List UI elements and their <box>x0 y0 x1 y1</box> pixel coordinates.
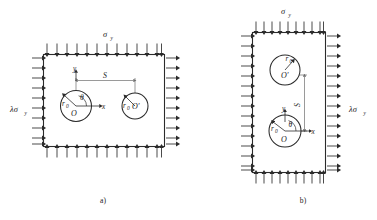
panel-b-left-load-arrows <box>241 36 251 170</box>
panel-b-lambda-sigma-symbol: λσ <box>348 105 358 114</box>
panel-b-radius-symbol: r <box>271 125 274 133</box>
panel-b-caption: b) <box>300 196 307 205</box>
panel-b-hole-second-center-label: O′ <box>281 71 289 80</box>
panel-a-second-radius-subscript: 0 <box>127 105 130 111</box>
panel-b-axis-x-label: x <box>311 128 316 136</box>
panel-a-hole-origin-center-label: O <box>71 109 77 118</box>
panel-a-lambda-sigma-symbol: λσ <box>9 105 19 114</box>
panel-b-axis-y-label: y <box>281 105 286 113</box>
panel-b-bottom-load-arrows <box>256 174 324 184</box>
panel-a-top-load-arrows <box>47 44 162 54</box>
panel-a-hole-origin: y x θ r 0 O <box>61 65 107 122</box>
panel-a-radius-subscript: 0 <box>66 103 69 109</box>
panel-a-side-load-label: λσ y <box>9 105 28 116</box>
panel-b-hole-origin-center-label: O <box>281 135 287 144</box>
panel-a-angle-label: θ <box>80 93 84 102</box>
panel-b-angle-label: θ <box>289 120 293 129</box>
panel-a-bottom-load-arrows <box>47 148 162 158</box>
panel-b-second-radius-symbol: r <box>286 55 289 63</box>
panel-a-caption: a) <box>100 196 106 205</box>
panel-a-right-load-arrows <box>166 58 176 144</box>
panel-a-lambda-sigma-subscript: y <box>24 110 28 116</box>
panel-b: σ y λσ y <box>241 7 367 205</box>
panel-b-distance-label: S <box>293 103 302 107</box>
panel-b-plate-outline <box>253 33 326 173</box>
panel-a-axis-y-label: y <box>72 65 77 73</box>
panel-a-radius-symbol: r <box>62 100 65 108</box>
panel-a-sigma-symbol: σ <box>103 30 108 39</box>
figure-container: σ y λσ y <box>0 0 377 220</box>
panel-b-right-load-arrows <box>327 36 337 170</box>
panel-a-left-load-arrows <box>32 58 42 144</box>
panel-b-side-load-label: λσ y <box>348 105 367 116</box>
panel-b-hole-second: r 0 O′ <box>270 55 300 85</box>
panel-a-top-load-label: σ y <box>103 30 114 41</box>
panel-b-lambda-sigma-subscript: y <box>363 110 367 116</box>
panel-b-sigma-symbol: σ <box>281 7 286 16</box>
panel-b-top-load-label: σ y <box>281 7 292 18</box>
panel-b-top-load-arrows <box>256 22 324 32</box>
panel-a-second-radius-symbol: r <box>123 102 126 110</box>
panel-a-hole-second: r 0 O′ <box>122 93 148 119</box>
panel-b-radius-subscript: 0 <box>275 128 278 134</box>
panel-b-hole-origin: y x θ r 0 O <box>269 105 316 148</box>
panel-a-axis-x-label: x <box>101 103 106 111</box>
figure-canvas: σ y λσ y <box>0 0 377 220</box>
panel-b-second-radius-subscript: 0 <box>290 58 293 64</box>
panel-b-sigma-subscript: y <box>288 12 292 18</box>
panel-a-sigma-subscript: y <box>110 35 114 41</box>
panel-a: σ y λσ y <box>9 30 176 205</box>
panel-a-hole-second-center-label: O′ <box>132 102 140 111</box>
panel-a-distance-label: S <box>103 71 107 80</box>
